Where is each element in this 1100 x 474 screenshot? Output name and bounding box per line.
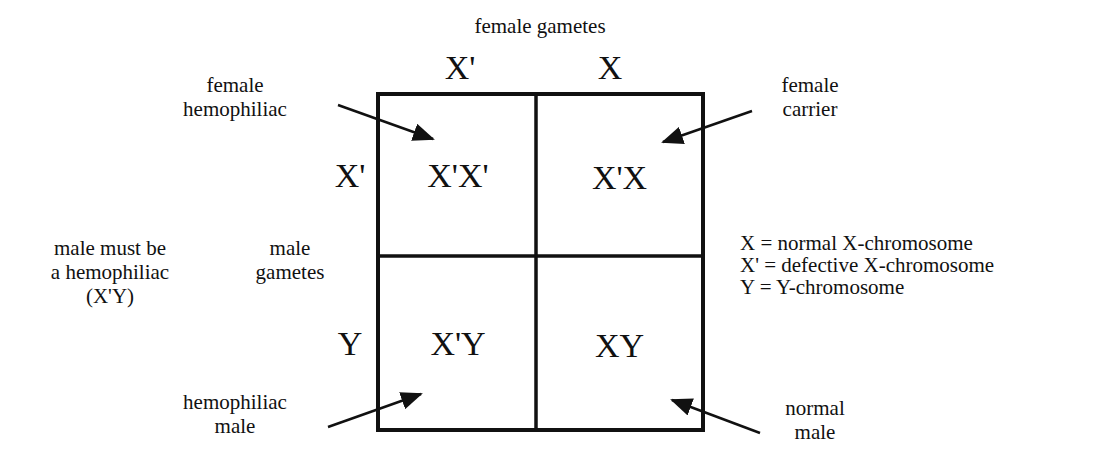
note-line: male must be xyxy=(20,236,200,260)
punnett-grid xyxy=(378,94,703,430)
callout-line: female xyxy=(760,73,860,97)
cell-x-prime-x: X'X xyxy=(536,160,703,196)
callout-normal-male: normal male xyxy=(750,396,880,444)
male-gametes-line-1: male xyxy=(240,236,340,260)
arrow-hemophiliac-male-icon xyxy=(328,394,421,427)
arrow-female-hemophiliac-icon xyxy=(338,105,433,139)
note-line: (X'Y) xyxy=(20,284,200,308)
callout-line: normal xyxy=(750,396,880,420)
male-gametes-title: male gametes xyxy=(240,236,340,284)
cell-x-y: XY xyxy=(536,328,703,364)
legend-item-y: Y = Y-chromosome xyxy=(740,276,994,298)
column-header-x: X xyxy=(580,50,640,86)
callout-line: male xyxy=(750,420,880,444)
legend-item-x-prime: X' = defective X-chromosome xyxy=(740,254,994,276)
note-male-must-be-hemophiliac: male must be a hemophiliac (X'Y) xyxy=(20,236,200,308)
callout-line: male xyxy=(160,414,310,438)
note-line: a hemophiliac xyxy=(20,260,200,284)
legend-item-x: X = normal X-chromosome xyxy=(740,232,994,254)
callout-female-hemophiliac: female hemophiliac xyxy=(155,73,315,121)
column-header-x-prime: X' xyxy=(420,50,500,86)
grid-border xyxy=(378,94,703,430)
callout-line: carrier xyxy=(760,97,860,121)
legend: X = normal X-chromosome X' = defective X… xyxy=(740,232,994,298)
male-gametes-line-2: gametes xyxy=(240,260,340,284)
callout-female-carrier: female carrier xyxy=(760,73,860,121)
callout-line: hemophiliac xyxy=(160,390,310,414)
cell-x-prime-x-prime: X'X' xyxy=(380,158,536,194)
callout-line: hemophiliac xyxy=(155,97,315,121)
callout-line: female xyxy=(155,73,315,97)
cell-x-prime-y: X'Y xyxy=(380,326,536,362)
row-header-y: Y xyxy=(325,326,375,362)
female-gametes-title: female gametes xyxy=(380,14,700,38)
callout-hemophiliac-male: hemophiliac male xyxy=(160,390,310,438)
arrow-female-carrier-icon xyxy=(663,111,752,142)
row-header-x-prime: X' xyxy=(325,158,375,194)
